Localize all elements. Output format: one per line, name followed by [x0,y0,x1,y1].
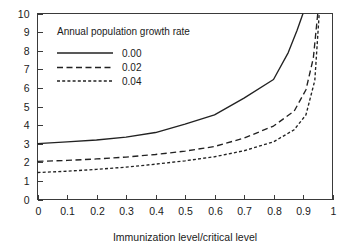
legend-title: Annual population growth rate [57,26,190,37]
x-tick-label: 0 [36,205,42,217]
legend-entries: 0.000.020.04 [57,48,142,87]
x-tick-label: 0.4 [149,205,164,217]
x-tick-label: 0.7 [237,205,252,217]
x-tick-label: 0.9 [296,205,311,217]
y-tick-label: 1 [24,175,30,187]
y-tick-label: 4 [24,119,30,131]
chart-legend: Annual population growth rate 0.000.020.… [57,26,190,87]
line-chart: 012345678910 00.10.20.30.40.50.60.70.80.… [0,0,348,250]
y-tick-label: 7 [24,63,30,75]
legend-label-0-02: 0.02 [122,62,142,73]
x-tick-label: 0.8 [267,205,282,217]
x-axis-title: Immunization level/critical level [113,231,257,243]
x-tick-label: 0.1 [60,205,75,217]
y-tick-label: 8 [24,45,30,57]
legend-label-0-00: 0.00 [122,48,142,59]
series-line-0-04 [38,14,320,173]
y-axis-tick-labels: 012345678910 [18,8,30,206]
chart-figure: 012345678910 00.10.20.30.40.50.60.70.80.… [0,0,348,250]
y-tick-label: 9 [24,26,30,38]
y-tick-label: 2 [24,156,30,168]
y-tick-label: 0 [24,194,30,206]
plot-axes [38,14,333,200]
legend-label-0-04: 0.04 [122,76,142,87]
x-tick-label: 0.5 [178,205,193,217]
data-series-group [38,14,320,173]
y-tick-label: 6 [24,82,30,94]
x-axis-tick-labels: 00.10.20.30.40.50.60.70.80.91 [36,205,337,217]
x-tick-label: 0.2 [90,205,105,217]
x-tick-label: 1 [331,205,337,217]
y-tick-label: 10 [18,8,30,20]
x-axis-ticks [39,195,334,200]
x-tick-label: 0.3 [119,205,134,217]
axis-frame [38,14,333,200]
y-tick-label: 3 [24,138,30,150]
y-tick-label: 5 [24,101,30,113]
x-tick-label: 0.6 [208,205,223,217]
